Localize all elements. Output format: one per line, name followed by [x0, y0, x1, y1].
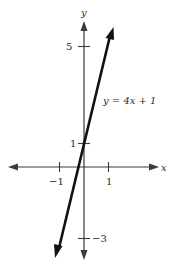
- y-tick-label-neg3: −3: [92, 233, 107, 244]
- graph: y x 5 1 −3 −1 1 y = 4x + 1: [0, 0, 178, 276]
- x-axis-label: x: [161, 162, 167, 173]
- y-axis-up-arrow-icon: [81, 21, 88, 31]
- y-tick-label-5: 5: [66, 41, 72, 52]
- x-axis-left-arrow-icon: [8, 164, 18, 171]
- line-down-arrow-icon: [54, 244, 63, 258]
- y-axis-down-arrow-icon: [81, 250, 88, 260]
- y-axis-label: y: [80, 7, 87, 18]
- line-up-arrow-icon: [106, 27, 115, 40]
- x-axis-right-arrow-icon: [149, 164, 159, 171]
- x-tick-label-1: 1: [106, 176, 112, 187]
- equation-label: y = 4x + 1: [102, 95, 157, 106]
- y-tick-label-1: 1: [70, 138, 76, 149]
- x-tick-label-neg1: −1: [49, 176, 64, 187]
